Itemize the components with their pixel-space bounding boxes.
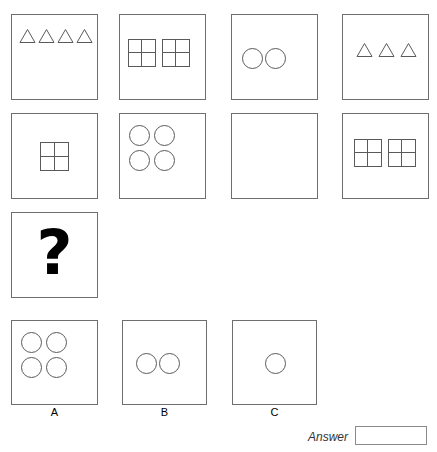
matrix-cell-r2c1[interactable] <box>11 113 98 199</box>
triangle-icon <box>76 28 93 44</box>
matrix-cell-r2c1-content <box>12 114 97 198</box>
triangle-icon <box>57 28 74 44</box>
matrix-cell-r1c2[interactable] <box>119 14 206 100</box>
triangle-group <box>354 41 418 59</box>
circle-icon <box>46 357 67 378</box>
grid-2x2-icon <box>128 39 156 67</box>
circle-icon <box>136 353 157 374</box>
grid-group <box>354 139 416 167</box>
circle-icon <box>21 357 42 378</box>
matrix-cell-r2c2-content <box>120 114 205 198</box>
matrix-cell-r1c3-content <box>232 15 317 99</box>
circle-icon <box>154 125 175 146</box>
answer-label: Answer <box>266 430 348 444</box>
triangle-icon <box>356 42 373 58</box>
answer-input-box[interactable] <box>355 426 427 445</box>
option-a-label: A <box>11 406 98 418</box>
matrix-cell-r1c4-content <box>343 15 428 99</box>
option-b-label: B <box>122 406 207 418</box>
circle-icon <box>21 332 42 353</box>
option-a-content <box>12 321 97 404</box>
circle-icon <box>154 150 175 171</box>
option-b-box[interactable] <box>122 320 207 405</box>
matrix-cell-r2c4[interactable] <box>342 113 429 199</box>
circle-group <box>21 332 67 378</box>
grid-2x2-icon <box>354 139 382 167</box>
triangle-icon <box>19 28 36 44</box>
matrix-cell-r2c3-content <box>232 114 317 198</box>
option-c-content <box>233 321 316 404</box>
matrix-cell-r2c3[interactable] <box>231 113 318 199</box>
circle-group <box>240 48 288 69</box>
circle-group <box>129 125 175 171</box>
circle-icon <box>265 48 286 69</box>
puzzle-canvas: ? A B C Ans <box>0 0 437 452</box>
circle-icon <box>46 332 67 353</box>
circle-icon <box>265 353 286 374</box>
circle-group <box>134 353 182 374</box>
grid-group <box>128 39 190 67</box>
grid-2x2-icon <box>388 139 416 167</box>
circle-icon <box>242 48 263 69</box>
circle-icon <box>129 125 150 146</box>
grid-2x2-icon <box>162 39 190 67</box>
circle-group <box>265 353 286 374</box>
matrix-cell-r2c2[interactable] <box>119 113 206 199</box>
matrix-cell-r1c1-content <box>12 15 97 99</box>
question-mark-icon: ? <box>12 213 97 297</box>
matrix-cell-r1c2-content <box>120 15 205 99</box>
triangle-icon <box>378 42 395 58</box>
triangle-icon <box>400 42 417 58</box>
matrix-cell-r2c4-content <box>343 114 428 198</box>
answer-input[interactable] <box>356 429 426 446</box>
option-b-content <box>123 321 206 404</box>
grid-2x2-icon <box>40 142 69 171</box>
triangle-icon <box>38 28 55 44</box>
circle-icon <box>129 150 150 171</box>
triangle-group <box>17 27 94 45</box>
matrix-cell-r1c1[interactable] <box>11 14 98 100</box>
option-c-label: C <box>232 406 317 418</box>
grid-group <box>40 142 69 171</box>
matrix-cell-r3c1[interactable]: ? <box>11 212 98 298</box>
matrix-cell-r1c3[interactable] <box>231 14 318 100</box>
option-a-box[interactable] <box>11 320 98 405</box>
matrix-cell-r3c1-content: ? <box>12 213 97 297</box>
matrix-cell-r1c4[interactable] <box>342 14 429 100</box>
circle-icon <box>159 353 180 374</box>
option-c-box[interactable] <box>232 320 317 405</box>
